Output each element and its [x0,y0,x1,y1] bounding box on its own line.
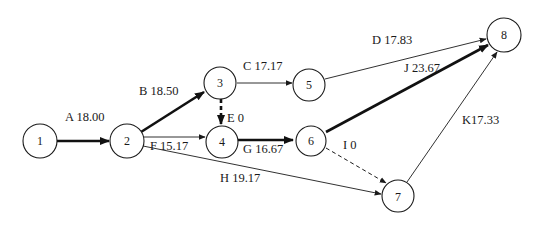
edge-d-label: D 17.83 [372,33,412,47]
edge-j-label: J 23.67 [404,61,440,75]
edge-b-arrow [141,92,204,132]
node-1-label: 1 [37,134,43,148]
edge-b-label: B 18.50 [139,84,179,98]
node-6: 6 [296,126,326,156]
edge-c-label: C 17.17 [243,59,283,73]
edge-f-label: F 15.17 [150,139,188,153]
edge-k-label: K17.33 [462,113,499,127]
node-1: 1 [23,124,57,158]
node-4-label: 4 [219,135,225,149]
node-2: 2 [110,124,144,158]
edge-e-label: E 0 [227,111,244,125]
node-2-label: 2 [124,134,130,148]
node-3: 3 [204,67,236,99]
edge-g-label: G 16.67 [243,142,283,156]
node-7: 7 [382,180,414,212]
node-6-label: 6 [308,134,314,148]
node-4: 4 [206,126,238,158]
node-8: 8 [487,18,521,52]
edge-a-label: A 18.00 [65,110,105,124]
node-3-label: 3 [217,76,223,90]
edge-i-label: I 0 [343,138,357,152]
node-5-label: 5 [306,78,312,92]
node-5: 5 [293,69,325,101]
edge-h-label: H 19.17 [220,171,260,185]
edge-i-arrow [326,148,386,183]
network-diagram: A 18.00 B 18.50 C 17.17 D 17.83 E 0 F 15… [0,0,539,225]
node-8-label: 8 [501,28,507,42]
node-7-label: 7 [395,190,401,204]
